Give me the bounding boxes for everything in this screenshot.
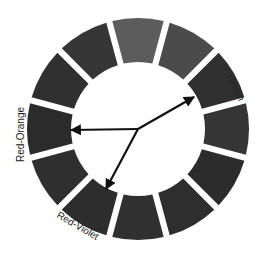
label-red-orange: Red-Orange bbox=[15, 107, 26, 162]
wheel-segment bbox=[112, 18, 163, 64]
wheel-segment bbox=[203, 103, 249, 154]
arrow-to-red-orange bbox=[71, 129, 138, 130]
complement-arrows bbox=[71, 97, 194, 189]
arrow-to-green bbox=[138, 97, 194, 129]
wheel-segment bbox=[112, 194, 163, 240]
arrow-to-red-violet bbox=[106, 129, 138, 189]
color-wheel-diagram: Green Red-Orange Red-Violet bbox=[0, 0, 261, 267]
wheel-segment bbox=[27, 103, 73, 154]
